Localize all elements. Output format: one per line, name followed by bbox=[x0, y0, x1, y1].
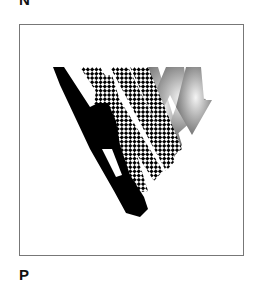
panel-label-p: P bbox=[19, 266, 29, 283]
panel-label-n: N bbox=[19, 0, 30, 8]
v-icon-graphic bbox=[20, 25, 245, 257]
figure-frame bbox=[19, 24, 244, 256]
